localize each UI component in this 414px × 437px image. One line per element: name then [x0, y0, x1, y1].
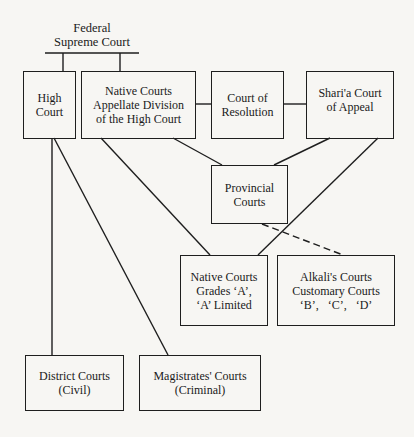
sharia-court-of-appeal-box: Shari'a Court of Appeal: [306, 71, 394, 139]
node-text: Court: [36, 105, 63, 119]
node-text: Shari'a Court: [318, 86, 381, 100]
node-text: of Appeal: [318, 100, 381, 114]
node-text: Customary Courts: [292, 284, 380, 298]
alkali-courts-box: Alkali's Courts Customary Courts ‘B’, ‘C…: [277, 255, 395, 326]
node-text: Courts: [225, 195, 274, 209]
node-text: Native Courts: [191, 270, 258, 284]
native-courts-grades-box: Native Courts Grades ‘A’, ‘A’ Limited: [180, 255, 268, 326]
node-text: Magistrates' Courts: [153, 369, 246, 383]
court-of-resolution-box: Court of Resolution: [211, 71, 284, 139]
node-text: (Criminal): [153, 383, 246, 397]
node-text: High: [36, 91, 63, 105]
native-appellate-box: Native Courts Appellate Division of the …: [81, 71, 196, 139]
node-text: Grades ‘A’,: [191, 284, 258, 298]
appellate-to-native-grades: [101, 138, 210, 255]
district-courts-box: District Courts (Civil): [25, 355, 124, 411]
node-text: ‘A’ Limited: [191, 298, 258, 312]
title-line-2: Supreme Court: [54, 35, 130, 49]
node-text: Court of: [221, 91, 273, 105]
federal-supreme-court-label: Federal Supreme Court: [40, 21, 144, 49]
node-text: of the High Court: [93, 112, 184, 126]
sharia-to-provincial: [274, 138, 330, 165]
title-line-1: Federal: [73, 21, 110, 35]
appellate-to-provincial: [173, 138, 222, 165]
provincial-courts-box: Provincial Courts: [211, 165, 288, 224]
high-to-magistrates: [54, 138, 168, 355]
node-text: District Courts: [39, 369, 110, 383]
node-text: (Civil): [39, 383, 110, 397]
node-text: Native Courts: [93, 84, 184, 98]
high-court-box: High Court: [23, 71, 76, 139]
node-text: Appellate Division: [93, 98, 184, 112]
node-text: ‘B’, ‘C’, ‘D’: [292, 298, 380, 312]
node-text: Resolution: [221, 105, 273, 119]
magistrates-courts-box: Magistrates' Courts (Criminal): [139, 355, 261, 411]
node-text: Alkali's Courts: [292, 270, 380, 284]
node-text: Provincial: [225, 181, 274, 195]
